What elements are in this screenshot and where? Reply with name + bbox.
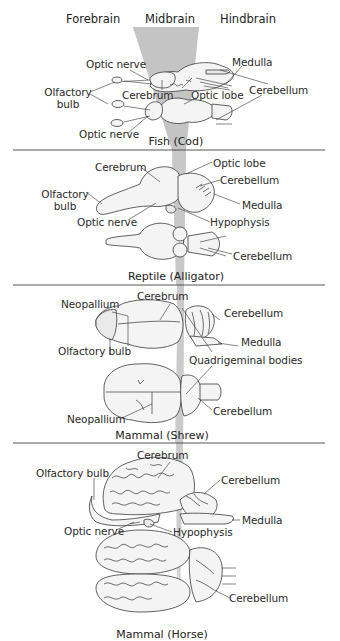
label-line: bulb — [44, 98, 92, 110]
header-forebrain: Forebrain — [66, 13, 120, 26]
label-optic-lobe: Optic lobe — [213, 157, 266, 169]
label-cerebellum-bottom: Cerebellum — [213, 405, 272, 417]
label-hypophysis: Hypophysis — [210, 216, 270, 228]
label-medulla: Medulla — [241, 336, 281, 348]
label-optic-nerve: Optic nerve — [77, 216, 137, 228]
label-cerebellum-bottom: Cerebellum — [229, 592, 288, 604]
label-neopallium-top: Neopallium — [61, 298, 119, 310]
label-olfactory-bulb: Olfactory bulb — [44, 86, 92, 110]
horse-brain-side-view — [89, 457, 233, 527]
label-medulla: Medulla — [242, 514, 282, 526]
fish-brain-top-view — [111, 98, 232, 126]
label-optic-nerve: Optic nerve — [64, 525, 124, 537]
label-cerebellum-top: Cerebellum — [224, 307, 283, 319]
caption-fish: Fish (Cod) — [149, 135, 204, 148]
caption-reptile: Reptile (Alligator) — [128, 270, 224, 283]
label-cerebellum-top: Cerebellum — [220, 174, 279, 186]
reptile-brain-top-view — [106, 223, 226, 259]
label-olfactory-bulb: Olfactory bulb — [40, 188, 90, 212]
brain-evolution-diagram: Forebrain Midbrain Hindbrain Optic nerve… — [0, 0, 340, 641]
label-hypophysis: Hypophysis — [173, 526, 233, 538]
label-optic-lobe: Optic lobe — [191, 89, 244, 101]
label-cerebrum: Cerebrum — [122, 89, 173, 101]
caption-horse: Mammal (Horse) — [116, 628, 208, 641]
header-midbrain: Midbrain — [145, 13, 195, 26]
label-cerebrum: Cerebrum — [137, 449, 188, 461]
header-hindbrain: Hindbrain — [220, 13, 276, 26]
label-optic-nerve: Optic nerve — [86, 58, 146, 70]
label-cerebellum-bottom: Cerebellum — [233, 250, 292, 262]
label-line: Olfactory — [40, 188, 90, 200]
label-cerebrum: Cerebrum — [137, 290, 188, 302]
label-medulla: Medulla — [242, 199, 282, 211]
label-cerebrum: Cerebrum — [95, 161, 146, 173]
label-olfactory-bulb: Olfactory bulb — [36, 467, 109, 479]
label-olfactory-bulb: Olfactory bulb — [58, 345, 131, 357]
label-neopallium-bottom: Neopallium — [67, 413, 125, 425]
label-line: bulb — [40, 200, 90, 212]
label-optic-nerve-bottom: Optic nerve — [79, 128, 139, 140]
label-medulla: Medulla — [232, 56, 272, 68]
horse-brain-top-view — [96, 530, 236, 612]
reptile-brain-side-view — [96, 167, 214, 215]
caption-shrew: Mammal (Shrew) — [115, 429, 209, 442]
label-line: Olfactory — [44, 86, 92, 98]
label-cerebellum-top: Cerebellum — [221, 474, 280, 486]
label-quadrigeminal-bodies: Quadrigeminal bodies — [189, 354, 302, 366]
label-cerebellum: Cerebellum — [249, 84, 308, 96]
